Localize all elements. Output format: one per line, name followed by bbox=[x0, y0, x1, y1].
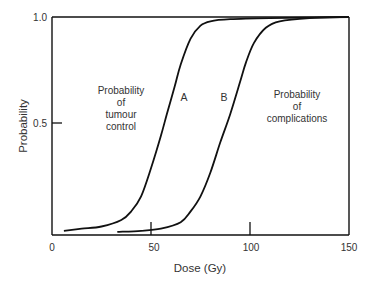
curve-label-a: A bbox=[180, 91, 187, 103]
x-tick-label-0: 0 bbox=[49, 242, 55, 253]
x-tick-label-150: 150 bbox=[341, 242, 358, 253]
svg-text:Probability: Probability bbox=[274, 89, 321, 100]
x-tick-label-100: 100 bbox=[243, 242, 260, 253]
y-tick-label-0.5: 0.5 bbox=[33, 118, 47, 129]
y-axis-title: Probability bbox=[17, 99, 29, 153]
y-tick-label-1.0: 1.0 bbox=[33, 12, 47, 23]
annotation-complications: Probability of complications bbox=[267, 89, 328, 124]
svg-text:of: of bbox=[293, 101, 302, 112]
x-axis-title: Dose (Gy) bbox=[174, 262, 227, 274]
x-tick-label-50: 50 bbox=[148, 242, 160, 253]
curve-b bbox=[117, 17, 349, 232]
svg-text:Probability: Probability bbox=[98, 85, 145, 96]
svg-text:tumour: tumour bbox=[105, 109, 137, 120]
svg-text:of: of bbox=[117, 97, 126, 108]
annotation-tumour-control: Probability of tumour control bbox=[98, 85, 145, 132]
dose-response-chart: 1.0 0.5 0 50 100 150 Probability Dose (G… bbox=[0, 0, 372, 284]
plot-frame bbox=[52, 17, 349, 235]
svg-text:complications: complications bbox=[267, 113, 328, 124]
curve-label-b: B bbox=[220, 91, 227, 103]
svg-text:control: control bbox=[106, 121, 136, 132]
